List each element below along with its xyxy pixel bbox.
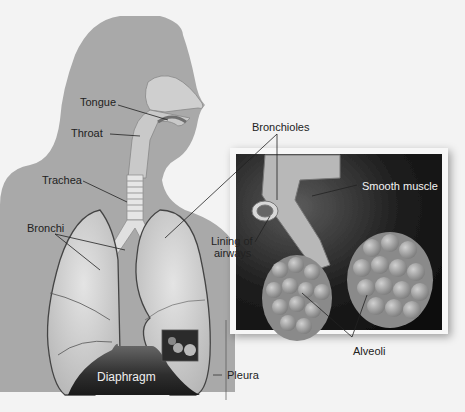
label-airways: airways (214, 247, 251, 259)
respiratory-diagram (0, 0, 465, 412)
label-diaphragm: Diaphragm (97, 371, 156, 383)
label-pleura: Pleura (227, 369, 259, 381)
label-trachea: Trachea (42, 174, 82, 186)
label-lining-of: Lining of (211, 235, 253, 247)
label-bronchioles: Bronchioles (252, 121, 309, 133)
label-tongue: Tongue (80, 96, 116, 108)
label-alveoli: Alveoli (353, 345, 385, 357)
alveoli-cluster-left (262, 255, 332, 341)
alveoli-cluster-right (347, 232, 433, 328)
label-bronchi: Bronchi (27, 222, 64, 234)
label-smooth-muscle: Smooth muscle (362, 180, 438, 192)
label-throat: Throat (71, 127, 103, 139)
